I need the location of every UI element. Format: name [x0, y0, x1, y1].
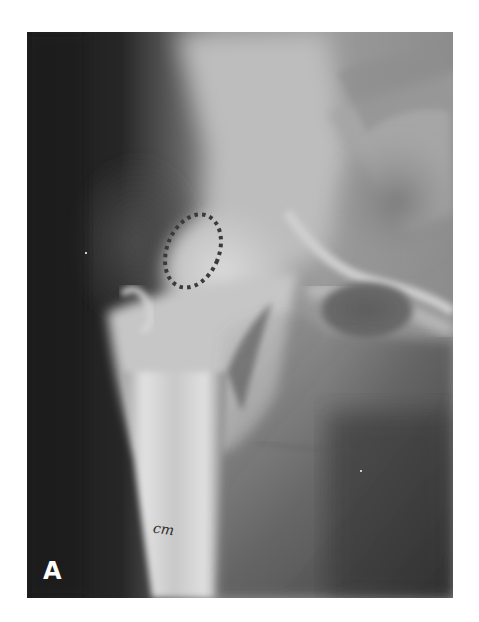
- film-speck: [360, 470, 362, 472]
- handwritten-cm-label: cm: [152, 520, 175, 539]
- panel-label: A: [43, 558, 62, 584]
- xray-drawing: [27, 32, 453, 598]
- xray-image: cm A: [27, 32, 453, 598]
- film-speck: [85, 252, 87, 254]
